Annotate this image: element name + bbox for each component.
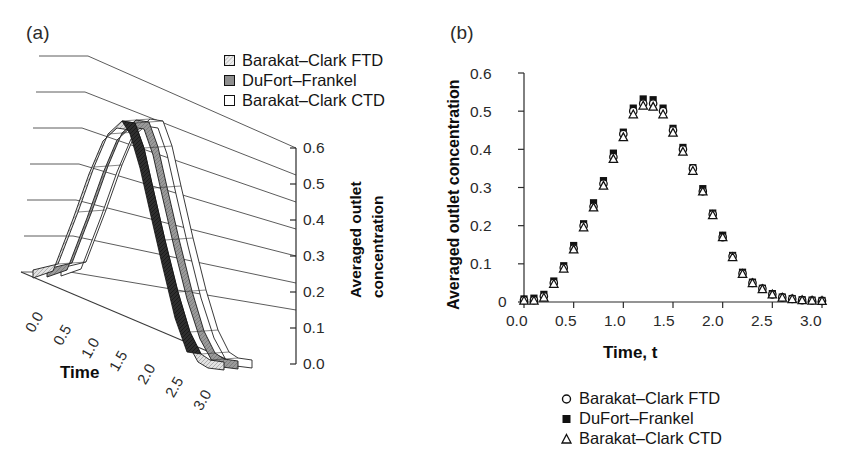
panel-b-y-tick-5: 0.1 (470, 255, 492, 273)
panel-a-z-axis-title-line2: concentration (370, 170, 388, 300)
panel-b-x-axis-title: Time, t (603, 343, 657, 363)
panel-b-y-tick-6: 0 (498, 293, 507, 311)
panel-b-x-tick-0: 0.0 (506, 312, 528, 330)
panel-b-axes (518, 73, 822, 308)
panel-b-y-tick-1: 0.5 (470, 103, 492, 121)
panel-a-legend-item-1[interactable]: DuFort–Frankel (224, 70, 385, 90)
panel-b-legend-label-2: Barakat–Clark CTD (579, 430, 722, 447)
panel-a-legend-item-0[interactable]: Barakat–Clark FTD (224, 50, 385, 70)
panel-b-x-tick-4: 2.0 (702, 312, 724, 330)
panel-b-x-tick-6: 3.0 (800, 312, 822, 330)
panel-a-z-axis (290, 148, 296, 364)
legend-swatch-gray-square (224, 75, 235, 86)
legend-marker-filled-square (560, 412, 573, 425)
panel-a-z-tick-3: 0.3 (303, 247, 325, 265)
panel-a-z-tick-4: 0.2 (303, 283, 325, 301)
legend-swatch-light-hatched-square (224, 55, 235, 66)
panel-a-x-axis-title: Time (60, 363, 99, 383)
panel-b-legend-item-2[interactable]: Barakat–Clark CTD (560, 428, 722, 448)
panel-a-z-axis-title-line1: Averaged outlet (348, 168, 366, 298)
panel-a-z-tick-0: 0.6 (303, 139, 325, 157)
panel-a-z-tick-2: 0.4 (303, 211, 325, 229)
panel-a-legend-item-2[interactable]: Barakat–Clark CTD (224, 90, 385, 110)
panel-b-y-tick-2: 0.4 (470, 141, 492, 159)
panel-b-legend: Barakat–Clark FTD DuFort–Frankel Barakat… (560, 388, 722, 448)
panel-b-legend-label-1: DuFort–Frankel (579, 410, 694, 427)
panel-b-legend-label-0: Barakat–Clark FTD (579, 390, 720, 407)
panel-a-z-tick-6: 0.0 (303, 355, 325, 373)
legend-marker-open-triangle (560, 432, 573, 445)
panel-b-y-tick-3: 0.3 (470, 179, 492, 197)
panel-b-legend-item-1[interactable]: DuFort–Frankel (560, 408, 722, 428)
panel-b-x-tick-5: 2.5 (751, 312, 773, 330)
legend-swatch-white-square (224, 95, 235, 106)
panel-a-legend-label-0: Barakat–Clark FTD (242, 52, 383, 69)
figure-root: (a) (0, 0, 849, 465)
panel-a-z-tick-5: 0.1 (303, 319, 325, 337)
legend-marker-open-circle (560, 392, 573, 405)
panel-a-z-tick-1: 0.5 (303, 175, 325, 193)
panel-b-legend-item-0[interactable]: Barakat–Clark FTD (560, 388, 722, 408)
panel-b-data-points (520, 95, 826, 304)
panel-b: (b) 0.6 0.5 0.4 0.3 0.2 0.1 0 0.0 0.5 1.… (424, 0, 849, 465)
panel-a-legend-label-2: Barakat–Clark CTD (242, 92, 385, 109)
panel-a-legend: Barakat–Clark FTD DuFort–Frankel Barakat… (224, 50, 385, 110)
panel-b-y-tick-4: 0.2 (470, 217, 492, 235)
panel-a-legend-label-1: DuFort–Frankel (242, 72, 357, 89)
panel-b-x-tick-2: 1.0 (604, 312, 626, 330)
panel-b-x-tick-3: 1.5 (653, 312, 675, 330)
panel-b-y-tick-0: 0.6 (470, 65, 492, 83)
panel-a: (a) (0, 0, 424, 465)
panel-b-y-axis-title: Averaged outlet concentration (446, 60, 466, 310)
panel-b-x-tick-1: 0.5 (555, 312, 577, 330)
